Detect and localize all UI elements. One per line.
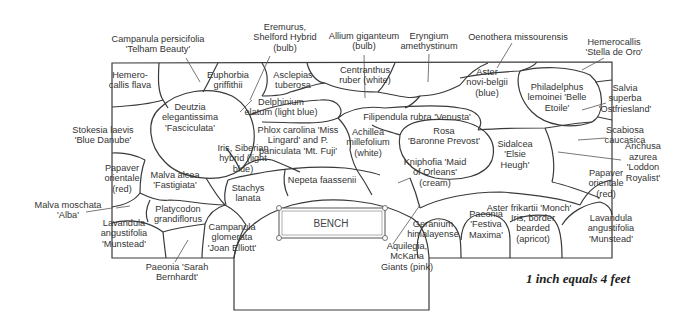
plant-label-stokesia: Stokesia laevis'Blue Danube' [72, 125, 134, 146]
bench-post [277, 206, 282, 211]
plant-label-oenothera: Oenothera missourensis [468, 32, 568, 42]
plant-label-salvia: Salviasuperba'Ostfriesland' [599, 83, 652, 114]
plant-labels: Campanula persicifolia'Telham Beauty'Ere… [35, 22, 662, 283]
plant-label-hemerocallis-flava: Hemero-callis flava [109, 70, 152, 91]
scale-note: 1 inch equals 4 feet [526, 271, 630, 286]
plant-label-paeonia-sarah: Paeonia 'SarahBernhardt' [146, 262, 209, 283]
plant-label-phlox: Phlox carolina 'MissLingard' and P.panic… [258, 125, 339, 156]
plant-label-campanula-persicifolia: Campanula persicifolia'Telham Beauty' [112, 34, 206, 55]
plant-label-papaver-left: Papaverorientale(red) [104, 163, 139, 194]
plant-label-anchusa: Anchusaazurea'LoddonRoyalist' [625, 141, 662, 183]
plant-label-philadelphus: Philadelphuslemoinei 'BelleEtoile' [528, 82, 587, 113]
plant-label-delphinium: Delphiniumelatum (light blue) [244, 97, 317, 118]
plant-label-filipendula: Filipendula rubra 'Venusta' [363, 112, 471, 122]
plant-label-malva-moschata: Malva moschata'Alba' [35, 200, 103, 221]
plant-label-iris-siberian: Iris, Siberianhybrid (lightblue) [217, 143, 268, 174]
plant-label-euphorbia: Euphorbiagriffithii [207, 70, 250, 91]
plant-label-malva-alcea: Malva alcea'Fastigiata' [150, 170, 200, 191]
plant-label-achillea: Achilleamillefolium(white) [346, 127, 390, 158]
plant-label-eremurus: Eremurus,Shelford Hybrid(bulb) [253, 22, 316, 53]
bench-post [277, 236, 282, 241]
bench-label: BENCH [313, 218, 348, 229]
plant-label-kniphofia: Kniphofia 'Maidof Orleans'(cream) [404, 157, 467, 188]
plant-label-geranium: Geraniumhimalayense [407, 219, 459, 240]
plant-label-papaver-right: Papaverorientale(red) [588, 168, 623, 199]
plant-label-sidalcea: Sidalcea'ElsieHeugh' [497, 139, 533, 170]
plant-label-centranthus: Centranthusruber (white) [339, 65, 391, 86]
plant-label-hemerocallis-stella: Hemerocallis'Stella de Oro' [585, 37, 642, 58]
garden-plan-diagram: BENCH [0, 0, 686, 328]
plant-label-stachys: Stachyslanata [232, 183, 265, 204]
plant-label-asclepias: Asclepiastuberosa [273, 70, 313, 91]
plant-label-paeonia-festiva: Paeonia'FestivaMaxima' [469, 209, 504, 240]
plant-label-lavandula-right: Lavandulaangustifolia'Munstead' [588, 213, 635, 244]
plant-label-iris-border: Iris, borderbearded(apricot) [511, 213, 555, 244]
plant-label-platycodon: Platycodongrandiflorus [154, 204, 202, 225]
plant-label-nepeta: Nepeta faassenii [288, 175, 356, 185]
plant-label-campanula-glomerata: Campanulaglomerata'Joan Elliott' [208, 222, 257, 253]
plant-label-deutzia: Deutziaelegantissima'Fasciculata' [162, 102, 219, 133]
plant-label-eryngium: Eryngiumamethystinum [400, 31, 458, 52]
plant-label-rosa: Rosa'Baronne Prevost' [408, 126, 480, 147]
plant-label-allium-giganteum: Allium giganteum(bulb) [329, 31, 400, 52]
plant-label-lavandula-left: Lavandulaangustifolia'Munstead' [101, 218, 148, 249]
plant-label-aquilegia: Aquilegia,McKanaGiants (pink) [381, 241, 433, 272]
plant-label-aster-novi-belgii: Asternovi-belgii(blue) [466, 67, 507, 98]
bench-post [383, 206, 388, 211]
